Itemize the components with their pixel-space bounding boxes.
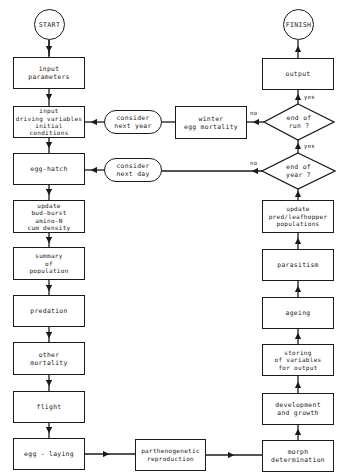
node-text: determination	[271, 456, 325, 464]
node-text: egg-hatch	[30, 165, 67, 173]
update-bud-burst-box: update bud-burst amino-N cum density	[13, 200, 85, 233]
node-text: bud-burst	[31, 209, 66, 216]
winter-egg-mortality-box: winter egg mortality	[175, 106, 247, 139]
storing-variables-box: storing of variables for output	[262, 344, 334, 376]
node-text: of	[45, 260, 53, 267]
node-text: development	[275, 401, 321, 409]
node-text: egg mortality	[184, 123, 238, 131]
node-text: initial conditions	[14, 122, 84, 137]
node-text: storing	[284, 349, 311, 356]
node-text: next year	[114, 122, 151, 130]
node-text: parameters	[28, 73, 69, 81]
input-parameters-box: input parameters	[13, 57, 85, 89]
node-text: update	[37, 202, 60, 209]
output-box: output	[262, 58, 334, 90]
node-text: for output	[278, 364, 317, 371]
node-text: driving variables	[16, 115, 83, 122]
node-text: of variables	[275, 356, 322, 363]
no-label-end-of-run: no	[250, 110, 257, 116]
node-text: pred/leafhopper	[269, 213, 328, 220]
node-text: flight	[37, 403, 62, 411]
development-growth-box: development and growth	[262, 393, 334, 425]
node-text: consider	[116, 114, 149, 122]
end-of-run-decision: end of run ?	[264, 104, 334, 140]
yes-label-output: yes	[304, 94, 315, 100]
consider-next-year-node: consider next year	[104, 110, 162, 134]
flight-box: flight	[13, 391, 85, 423]
start-label: START	[39, 21, 60, 29]
node-text: end of	[287, 114, 312, 122]
node-text: output	[286, 70, 311, 78]
node-text: other	[39, 351, 60, 359]
node-text: consider	[116, 162, 149, 170]
end-of-year-decision: end of year ?	[262, 153, 335, 189]
node-text: reproduction	[147, 455, 194, 463]
node-text: run ?	[289, 122, 310, 130]
node-text: egg - laying	[24, 450, 74, 458]
node-text: and growth	[277, 409, 318, 417]
node-text: year ?	[286, 171, 311, 179]
node-text: winter	[199, 115, 224, 123]
parthenogenetic-reproduction-box: parthenogenetic reproduction	[135, 439, 206, 471]
yes-label-end-of-run: yes	[304, 143, 315, 149]
node-text: input	[39, 107, 59, 114]
input-driving-variables-box: input driving variables initial conditio…	[13, 106, 85, 138]
node-text: mortality	[30, 359, 67, 367]
ageing-box: ageing	[262, 297, 334, 329]
predation-box: predation	[13, 295, 85, 327]
update-pred-leafhopper-box: update pred/leafhopper populations	[262, 200, 334, 233]
finish-node: FINISH	[283, 9, 314, 40]
start-node: START	[34, 9, 65, 40]
node-text: population	[29, 267, 68, 274]
node-text: populations	[276, 220, 319, 227]
other-mortality-box: other mortality	[13, 342, 85, 375]
egg-laying-box: egg - laying	[13, 438, 85, 470]
node-text: cum density	[27, 224, 70, 231]
node-text: summary	[35, 252, 62, 259]
finish-label: FINISH	[286, 21, 312, 29]
node-text: input	[39, 65, 60, 73]
consider-next-day-node: consider next day	[104, 158, 162, 182]
morph-determination-box: morph determination	[262, 440, 334, 472]
node-text: predation	[30, 307, 67, 315]
node-text: morph	[288, 448, 309, 456]
egg-hatch-box: egg-hatch	[13, 153, 85, 185]
node-text: amino-N	[35, 217, 62, 224]
node-text: parasitism	[277, 261, 318, 269]
node-text: update	[286, 205, 309, 212]
node-text: parthenogenetic	[141, 447, 200, 455]
summary-of-population-box: summary of population	[13, 247, 85, 280]
no-label-end-of-year: no	[250, 160, 257, 166]
parasitism-box: parasitism	[262, 249, 334, 281]
node-text: next day	[116, 170, 149, 178]
node-text: ageing	[286, 309, 311, 317]
node-text: end of	[286, 163, 311, 171]
